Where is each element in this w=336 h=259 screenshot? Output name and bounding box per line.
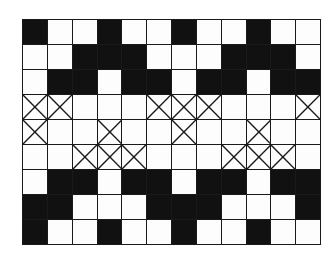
filled-cell — [247, 220, 271, 244]
crossed-cell — [23, 120, 47, 144]
empty-cell — [73, 95, 97, 119]
cross-icon — [73, 145, 97, 169]
empty-cell — [247, 170, 271, 194]
empty-cell — [172, 70, 196, 94]
empty-cell — [23, 170, 47, 194]
empty-cell — [147, 220, 171, 244]
empty-cell — [296, 120, 320, 144]
empty-cell — [271, 20, 295, 44]
filled-cell — [23, 20, 47, 44]
cross-icon — [172, 95, 196, 119]
crossed-cell — [197, 95, 221, 119]
empty-cell — [271, 220, 295, 244]
cross-icon — [23, 120, 47, 144]
crossed-cell — [247, 120, 271, 144]
empty-cell — [296, 20, 320, 44]
filled-cell — [122, 170, 146, 194]
filled-cell — [147, 70, 171, 94]
crossed-cell — [23, 95, 47, 119]
empty-cell — [48, 145, 72, 169]
filled-cell — [147, 170, 171, 194]
crossed-cell — [98, 145, 122, 169]
filled-cell — [271, 170, 295, 194]
filled-cell — [98, 45, 122, 69]
empty-cell — [147, 120, 171, 144]
empty-cell — [197, 120, 221, 144]
filled-cell — [197, 170, 221, 194]
empty-cell — [197, 45, 221, 69]
crossed-cell — [172, 95, 196, 119]
empty-cell — [172, 45, 196, 69]
empty-cell — [122, 195, 146, 219]
cross-icon — [197, 95, 221, 119]
filled-cell — [222, 70, 246, 94]
empty-cell — [222, 95, 246, 119]
crossed-cell — [271, 145, 295, 169]
empty-cell — [247, 70, 271, 94]
empty-cell — [222, 195, 246, 219]
filled-cell — [172, 220, 196, 244]
cross-icon — [296, 95, 320, 119]
empty-cell — [122, 95, 146, 119]
filled-cell — [197, 70, 221, 94]
filled-cell — [48, 70, 72, 94]
filled-cell — [296, 70, 320, 94]
empty-cell — [73, 220, 97, 244]
cross-icon — [48, 95, 72, 119]
filled-cell — [48, 170, 72, 194]
empty-cell — [73, 120, 97, 144]
empty-cell — [98, 70, 122, 94]
filled-cell — [98, 220, 122, 244]
empty-cell — [73, 20, 97, 44]
filled-cell — [73, 170, 97, 194]
crossed-cell — [172, 120, 196, 144]
empty-cell — [147, 20, 171, 44]
empty-cell — [98, 195, 122, 219]
filled-cell — [98, 20, 122, 44]
crossed-cell — [48, 95, 72, 119]
empty-cell — [197, 145, 221, 169]
empty-cell — [222, 120, 246, 144]
crossed-cell — [222, 145, 246, 169]
empty-cell — [147, 45, 171, 69]
filled-cell — [122, 45, 146, 69]
filled-cell — [172, 195, 196, 219]
cross-icon — [247, 145, 271, 169]
filled-cell — [271, 45, 295, 69]
crossed-cell — [296, 95, 320, 119]
cross-icon — [23, 95, 47, 119]
empty-cell — [271, 120, 295, 144]
empty-cell — [122, 120, 146, 144]
empty-cell — [48, 220, 72, 244]
empty-cell — [172, 170, 196, 194]
empty-cell — [147, 145, 171, 169]
cross-icon — [98, 120, 122, 144]
empty-cell — [98, 95, 122, 119]
empty-cell — [98, 170, 122, 194]
filled-cell — [73, 70, 97, 94]
crossed-cell — [122, 145, 146, 169]
empty-cell — [222, 20, 246, 44]
filled-cell — [222, 45, 246, 69]
empty-cell — [197, 220, 221, 244]
filled-cell — [48, 195, 72, 219]
filled-cell — [222, 170, 246, 194]
filled-cell — [23, 195, 47, 219]
cross-icon — [172, 120, 196, 144]
empty-cell — [23, 45, 47, 69]
filled-cell — [73, 45, 97, 69]
crossed-cell — [73, 145, 97, 169]
cross-icon — [98, 145, 122, 169]
empty-cell — [296, 145, 320, 169]
filled-cell — [122, 70, 146, 94]
empty-cell — [73, 195, 97, 219]
empty-cell — [23, 70, 47, 94]
empty-cell — [222, 220, 246, 244]
filled-cell — [296, 170, 320, 194]
cross-icon — [222, 145, 246, 169]
empty-cell — [23, 145, 47, 169]
empty-cell — [122, 20, 146, 44]
empty-cell — [296, 220, 320, 244]
empty-cell — [296, 45, 320, 69]
crossed-cell — [247, 145, 271, 169]
